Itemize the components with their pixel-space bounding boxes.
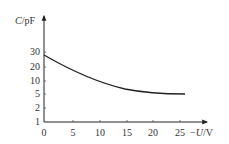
y-tick-label: 10 <box>30 75 40 86</box>
y-tick-label: 5 <box>35 88 40 99</box>
capacitance-curve <box>44 55 185 94</box>
y-tick-label: 1 <box>35 116 40 127</box>
y-tick-label: 2 <box>35 102 40 113</box>
x-tick-label: 0 <box>42 127 47 138</box>
y-tick-label: 30 <box>30 46 40 57</box>
x-tick-label: 5 <box>71 127 76 138</box>
x-tick-label: 25 <box>175 127 185 138</box>
x-axis-label: −U/V <box>190 127 214 138</box>
y-axis-label: C/pF <box>15 15 35 26</box>
y-tick-label: 20 <box>30 61 40 72</box>
x-tick-label: 10 <box>95 127 105 138</box>
chart: 30 20 10 5 2 1 0 5 10 15 20 25 C/pF −U/V <box>0 0 229 144</box>
x-tick-label: 20 <box>148 127 158 138</box>
x-tick-label: 15 <box>122 127 132 138</box>
